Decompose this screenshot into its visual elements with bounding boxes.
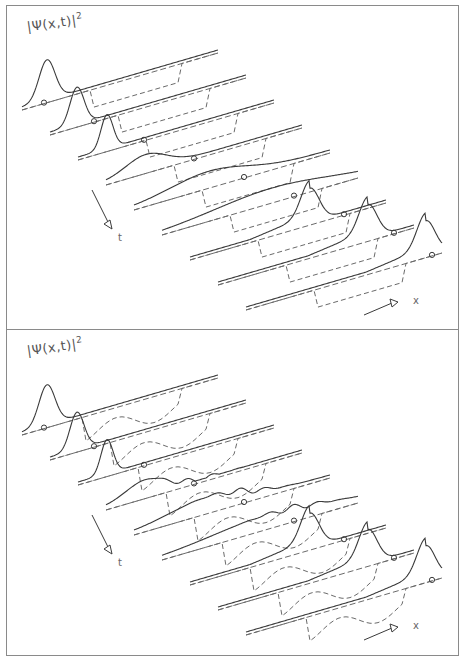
time-arrow-head-icon xyxy=(104,220,112,229)
potential-profile xyxy=(50,403,246,466)
density-curve xyxy=(78,100,274,157)
wavepacket-figure: |Ψ(x,t)|2 |Ψ(x,t)|2 t x t x xyxy=(0,0,462,663)
potential-profile xyxy=(218,553,414,616)
time-arrow-icon xyxy=(92,190,108,222)
x-arrow-icon xyxy=(364,303,392,315)
density-curve xyxy=(162,171,358,230)
density-curve xyxy=(134,475,330,530)
expectation-marker xyxy=(241,174,246,179)
plot-canvas xyxy=(0,0,462,663)
density-curve xyxy=(50,400,246,457)
x-arrow-head-icon xyxy=(390,299,398,307)
potential-profile xyxy=(78,428,274,491)
expectation-marker xyxy=(241,499,246,504)
time-arrow-icon xyxy=(92,515,108,547)
potential-profile xyxy=(246,578,442,641)
density-curve xyxy=(134,150,330,205)
density-curve xyxy=(22,50,218,107)
expectation-marker xyxy=(429,577,434,582)
potential-profile xyxy=(190,528,386,591)
density-curve xyxy=(22,375,218,432)
time-arrow-head-icon xyxy=(104,545,112,554)
density-curve xyxy=(50,75,246,132)
density-curve xyxy=(106,125,302,180)
density-curve xyxy=(162,496,358,555)
density-curve xyxy=(246,213,442,307)
density-curve xyxy=(78,425,274,482)
x-arrow-icon xyxy=(364,628,392,640)
density-curve xyxy=(106,450,302,505)
potential-profile xyxy=(162,503,358,566)
density-curve xyxy=(246,538,442,632)
potential-profile xyxy=(22,378,218,441)
potential-profile xyxy=(134,478,330,541)
x-arrow-head-icon xyxy=(390,624,398,632)
